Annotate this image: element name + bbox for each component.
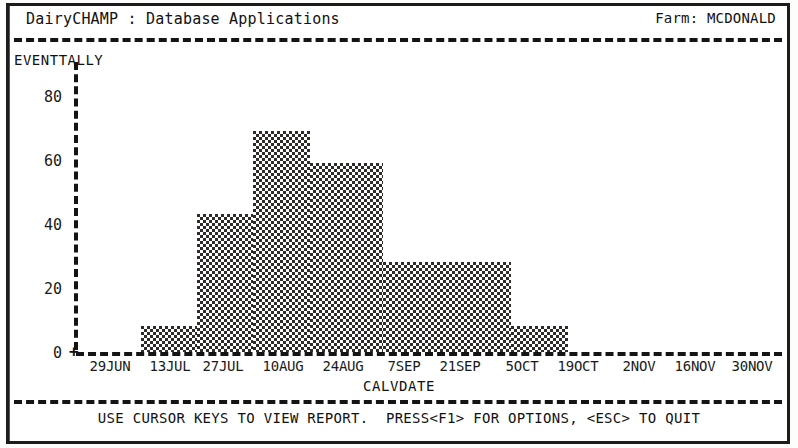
bar-29jun	[141, 326, 197, 352]
x-tick-label-10: 16NOV	[663, 358, 727, 374]
x-tick-label-9: 2NOV	[607, 358, 671, 374]
footer-hint: USE CURSOR KEYS TO VIEW REPORT. PRESS<F1…	[0, 410, 798, 426]
bars-container	[0, 0, 798, 352]
x-tick-label-7: 5OCT	[490, 358, 554, 374]
bar-13jul	[197, 214, 253, 352]
x-tick-label-5: 7SEP	[372, 358, 436, 374]
x-tick-label-2: 27JUL	[191, 358, 255, 374]
x-tick-label-0: 29JUN	[78, 358, 142, 374]
x-tick-label-3: 10AUG	[251, 358, 315, 374]
footer-divider	[14, 400, 782, 404]
bar-chart: EVENTTALLY 80 60 40 20 0 + 29JUN 13JUL 2…	[0, 0, 798, 448]
bar-27jul	[253, 131, 310, 352]
x-axis-line	[76, 352, 782, 356]
terminal-screen: DairyCHAMP : Database Applications Farm:…	[0, 0, 798, 448]
bar-21sep	[511, 326, 568, 352]
x-tick-label-11: 30NOV	[720, 358, 784, 374]
x-axis-title: CALVDATE	[0, 378, 798, 394]
bar-24aug	[383, 262, 511, 352]
x-tick-label-8: 19OCT	[546, 358, 610, 374]
bar-10aug	[310, 163, 383, 352]
x-tick-label-4: 24AUG	[311, 358, 375, 374]
x-tick-label-6: 21SEP	[428, 358, 492, 374]
